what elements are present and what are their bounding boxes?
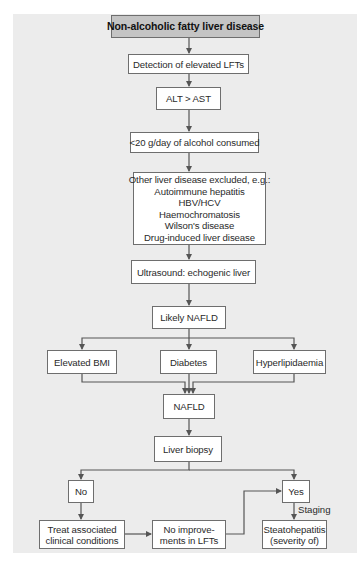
node-title-label: Non-alcoholic fatty liver disease	[107, 21, 264, 32]
node-title: Non-alcoholic fatty liver disease	[111, 15, 260, 38]
node-label: NAFLD	[174, 401, 205, 412]
node-label: clinical conditions	[46, 535, 119, 546]
node-no: No	[68, 480, 94, 503]
node-label: Steatohepatitis	[264, 524, 326, 535]
node-label: ments in LFTs	[160, 535, 218, 546]
node-label: ALT > AST	[166, 93, 211, 104]
list-item: Wilson's disease	[165, 220, 235, 232]
node-elevated-bmi: Elevated BMI	[47, 350, 117, 374]
node-label: Hyperlipidaemia	[256, 357, 323, 368]
node-label: Liver biopsy	[163, 444, 213, 455]
node-ultrasound: Ultrasound: echogenic liver	[131, 260, 256, 284]
node-diabetes: Diabetes	[160, 350, 217, 374]
node-detection: Detection of elevated LFTs	[128, 54, 249, 74]
edge-label-staging: Staging	[298, 504, 331, 515]
node-label: Likely NAFLD	[160, 312, 217, 323]
node-label: No improve-	[163, 524, 214, 535]
list-item: Autoimmune hepatitis	[154, 186, 244, 198]
node-label: Diabetes	[170, 357, 207, 368]
node-label: Other liver disease excluded, e.g.:	[129, 174, 271, 186]
node-label: Detection of elevated LFTs	[133, 59, 244, 70]
list-item: Haemochromatosis	[159, 209, 240, 221]
node-likely-nafld: Likely NAFLD	[152, 306, 226, 329]
node-label: Yes	[288, 486, 303, 497]
list-item: HBV/HCV	[179, 197, 221, 209]
node-label: Elevated BMI	[54, 357, 110, 368]
node-label: Ultrasound: echogenic liver	[137, 267, 250, 278]
node-label: Treat associated	[48, 524, 117, 535]
node-alcohol: <20 g/day of alcohol consumed	[130, 132, 259, 153]
node-label: <20 g/day of alcohol consumed	[129, 137, 259, 148]
node-alt-ast: ALT > AST	[156, 87, 221, 110]
node-steatohepatitis: Steatohepatitis (severity of)	[262, 520, 327, 549]
node-liver-biopsy: Liver biopsy	[154, 436, 222, 462]
node-label: (severity of)	[270, 535, 319, 546]
node-other-liver-disease: Other liver disease excluded, e.g.: Auto…	[133, 172, 266, 245]
node-yes: Yes	[282, 480, 310, 503]
node-nafld: NAFLD	[163, 394, 215, 419]
list-item: Drug-induced liver disease	[144, 232, 255, 244]
node-label: No	[75, 486, 87, 497]
node-treat-conditions: Treat associated clinical conditions	[39, 520, 125, 549]
node-hyperlipidaemia: Hyperlipidaemia	[253, 350, 326, 374]
node-no-improvement: No improve- ments in LFTs	[152, 520, 226, 549]
